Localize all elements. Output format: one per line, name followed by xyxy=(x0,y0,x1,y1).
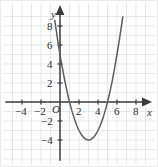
x-tick-label-8: 8 xyxy=(133,106,139,117)
x-axis-label: x xyxy=(147,107,152,118)
y-tick-label-8: 8 xyxy=(47,21,53,32)
y-axis-arrowhead xyxy=(56,5,65,15)
grid-lines xyxy=(3,3,155,164)
x-tick-label-2: 2 xyxy=(76,106,82,117)
x-tick-label-minus4: −4 xyxy=(15,106,27,117)
y-tick-label-6: 6 xyxy=(47,40,53,51)
origin-label: O xyxy=(52,104,60,115)
graph-figure: −4 −2 2 4 6 8 8 6 4 2 −2 −4 O x y xyxy=(0,0,158,167)
axis-lines xyxy=(6,12,146,160)
x-tick-label-6: 6 xyxy=(114,106,120,117)
coordinate-plane-svg xyxy=(0,0,158,167)
x-tick-label-4: 4 xyxy=(95,106,101,117)
y-tick-label-4: 4 xyxy=(47,59,53,70)
y-axis-label: y xyxy=(51,9,56,20)
y-tick-label-minus2: −2 xyxy=(41,116,53,127)
y-tick-label-minus4: −4 xyxy=(41,135,53,146)
y-tick-label-2: 2 xyxy=(47,78,53,89)
